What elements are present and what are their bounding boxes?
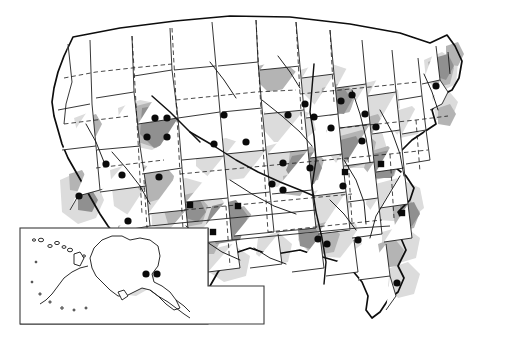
map-circle-marker — [284, 111, 291, 118]
map-circle-marker — [279, 159, 286, 166]
map-circle-marker — [279, 186, 286, 193]
map-circle-marker — [75, 192, 82, 199]
map-svg — [0, 0, 510, 340]
map-circle-marker — [314, 235, 321, 242]
map-circle-marker — [339, 182, 346, 189]
map-square-marker — [342, 169, 348, 175]
map-circle-marker — [155, 173, 162, 180]
map-circle-marker — [432, 82, 439, 89]
map-circle-marker — [323, 240, 330, 247]
map-circle-marker — [163, 114, 170, 121]
map-circle-marker — [210, 140, 217, 147]
map-square-marker — [187, 202, 193, 208]
map-circle-marker — [301, 100, 308, 107]
map-circle-marker — [151, 114, 158, 121]
map-circle-marker — [372, 123, 379, 130]
inset-circle-marker — [142, 270, 149, 277]
map-circle-marker — [354, 236, 361, 243]
map-circle-marker — [337, 97, 344, 104]
map-circle-marker — [118, 171, 125, 178]
map-circle-marker — [124, 217, 131, 224]
map-circle-marker — [393, 279, 400, 286]
map-circle-marker — [242, 138, 249, 145]
map-circle-marker — [163, 133, 170, 140]
map-circle-marker — [361, 110, 368, 117]
map-square-marker — [378, 161, 384, 167]
map-circle-marker — [358, 137, 365, 144]
map-circle-marker — [310, 113, 317, 120]
map-circle-marker — [220, 111, 227, 118]
map-figure — [0, 0, 510, 340]
map-square-marker — [399, 210, 405, 216]
map-circle-marker — [268, 180, 275, 187]
map-circle-marker — [306, 164, 313, 171]
map-circle-marker — [143, 133, 150, 140]
map-square-marker — [210, 229, 216, 235]
map-circle-marker — [327, 124, 334, 131]
map-square-marker — [235, 203, 241, 209]
map-circle-marker — [348, 91, 355, 98]
inset-circle-marker — [153, 270, 160, 277]
map-circle-marker — [102, 160, 109, 167]
